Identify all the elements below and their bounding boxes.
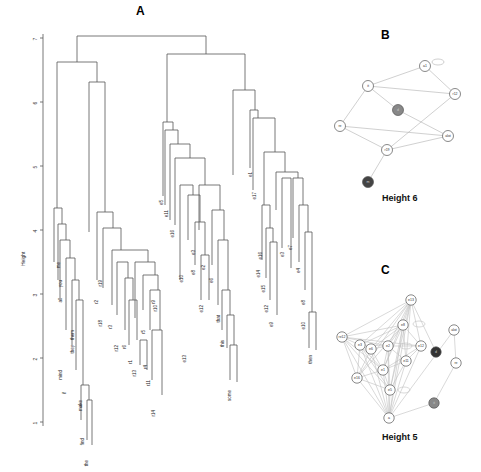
leaf-label: all [58,298,63,303]
y-tick-label: 5 [32,165,38,168]
leaf-label: if [62,391,67,394]
leaf-label: e3 [280,252,285,258]
graph-edge [389,403,434,418]
graph-node-label: a [388,416,390,420]
leaf-label: you [58,280,63,288]
leaf-label: e17 [252,192,257,200]
leaf-label: e13 [182,355,187,363]
y-tick-label: 4 [32,229,38,232]
leaf-label: me [56,262,61,269]
graph-node-label: e2 [386,344,390,348]
leaf-label: this [220,339,225,347]
graph-node-label: e6 [369,347,373,351]
y-tick-label: 7 [32,37,38,40]
dendrogram-branches [54,36,316,445]
leaf-label: make [78,400,83,412]
leaf-label: r10 [153,305,158,312]
graph-edge [368,86,455,94]
panel-a-letter: A [136,4,145,18]
leaf-label: e2 [201,265,206,271]
graph-edge [342,300,411,337]
graph-node-label: d [435,350,437,354]
leaf-label: r14 [151,410,156,417]
leaf-label: they [70,344,75,353]
leaf-label: r19 [98,280,103,287]
leaf-label: e9 [269,322,274,328]
panel-c-caption: Height 5 [382,432,418,442]
leaf-label: r5 [141,330,146,334]
y-axis-label: Height [20,252,26,266]
graph-node-label: e12 [418,344,424,348]
leaf-label: r11 [146,380,151,387]
leaf-label: e12 [199,305,204,313]
leaf-label: e1 [248,172,253,178]
figure-canvas: 1234567 meyouallthemmindtheyifmakefindth… [0,0,481,472]
graph-node-label: a1 [423,64,427,68]
leaf-label: e12 [264,305,269,313]
graph-node-label: e16 [354,376,360,380]
graph-node-label: r19 [384,148,389,152]
leaf-label: e11 [164,210,169,218]
leaf-label: e14 [256,270,261,278]
graph-node-label: e1 [381,368,385,372]
graph-node-label: alot [445,134,451,138]
graph-edge [434,363,456,403]
network-graph-b: a1itr12drealotr19m [335,59,461,188]
leaf-label: find [80,438,85,446]
graph-edge [390,325,403,390]
graph-node-label: alot [451,328,457,332]
graph-edge [371,349,389,418]
leaf-label: r6 [122,345,127,349]
leaf-label: r9 [151,300,156,304]
panel-c-letter: C [381,263,390,277]
graph-node-label: e5 [388,388,392,392]
leaf-label: r12 [114,345,119,352]
leaf-label: e3 [191,250,196,256]
graph-edge [425,66,455,94]
leaf-label: e16 [258,252,263,260]
panel-b-letter: B [381,28,390,42]
graph-self-loop [432,59,444,65]
graph-node-label: re [454,361,457,365]
y-tick-label: 3 [32,293,38,296]
network-graph-c: e13e8alotre12e3e6e2e12de11ree1e16e5ita [337,295,461,423]
graph-node-label: e11 [403,359,409,363]
graph-edge [387,136,448,150]
leaf-label: r3 [108,325,113,329]
y-tick-label: 1 [32,421,38,424]
graph-edge [340,86,368,126]
leaf-label: e5 [159,200,164,206]
dendrogram-y-axis: 1234567 [32,34,43,426]
leaf-label: e10 [179,275,184,283]
graph-node-label: it [367,84,369,88]
graph-edge [411,300,421,346]
leaf-label: e8 [301,300,306,306]
leaf-label: the [84,460,89,467]
graph-node-label: m [367,180,370,184]
y-tick-label: 2 [32,357,38,360]
leaf-label: some [227,390,232,402]
leaf-label: e6 [209,278,214,284]
leaf-label: r2 [94,300,99,304]
leaf-label: e8 [191,270,196,276]
leaf-label: e7 [288,245,293,251]
leaf-label: r18 [98,320,103,327]
graph-self-loop [398,387,410,393]
graph-edge [368,66,425,86]
leaf-label: them [70,330,75,340]
graph-edge [387,94,455,150]
graph-node-label: re12 [338,335,345,339]
dendrogram-leaf-labels: meyouallthemmindtheyifmakefindther19r2r1… [56,172,313,467]
leaf-label: r13 [132,370,137,377]
leaf-label: r4 [143,365,148,369]
graph-node-label: e8 [401,323,405,327]
leaf-label: mind [58,370,63,380]
leaf-label: e4 [296,268,301,274]
leaf-label: r1 [128,360,133,364]
graph-node-label: e13 [408,298,414,302]
leaf-label: that [216,314,221,322]
graph-node-label: r12 [452,92,457,96]
graph-node-label: e3 [358,343,362,347]
panel-b-caption: Height 6 [382,193,418,203]
leaf-label: e15 [261,285,266,293]
